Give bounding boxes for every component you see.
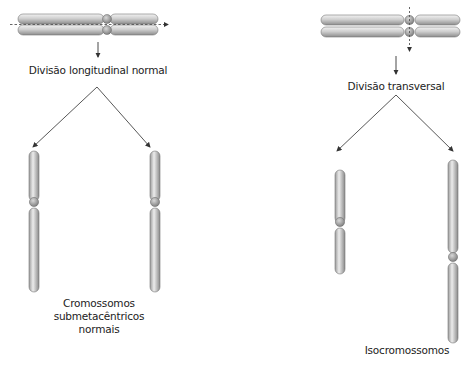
right-result-isochromosome-long <box>448 160 458 343</box>
left-result-label-line-2: submetacêntricos <box>49 310 149 323</box>
left-metaphase-chromosome <box>10 14 168 35</box>
left-result-label-line-3: normais <box>49 323 149 336</box>
left-result-label-line-1: Cromossomos <box>49 297 149 310</box>
right-process-label: Divisão transversal <box>340 80 452 93</box>
left-result-chromosome-2 <box>150 151 160 292</box>
left-result-chromosome-1 <box>29 151 39 292</box>
right-branch-arrows <box>337 95 453 151</box>
right-result-isochromosome-short <box>335 170 345 274</box>
left-result-label: Cromossomos submetacêntricos normais <box>49 297 149 336</box>
right-result-label: Isocromossomos <box>362 344 452 357</box>
left-process-label: Divisão longitudinal normal <box>23 64 173 77</box>
left-branch-arrows <box>33 87 150 147</box>
right-metaphase-chromosome <box>321 7 460 51</box>
